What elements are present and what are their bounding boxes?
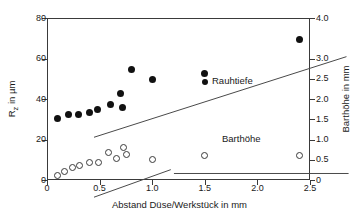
rauhtiefe-point: [86, 109, 93, 116]
rauhtiefe-point: [117, 90, 124, 97]
y-right-tick-1.0: [310, 140, 315, 141]
barthoehe-point: [149, 156, 156, 163]
rauhtiefe-point: [94, 106, 101, 113]
barthoehe-point: [76, 162, 83, 169]
y-right-label-0: 0: [316, 176, 321, 185]
barthoehe-point: [201, 152, 208, 159]
rauhtiefe-legend-marker-icon: [202, 79, 208, 85]
x-axis-title: Abstand Düse/Werkstück in mm: [0, 199, 359, 210]
y-right-tick-0.5: [310, 160, 315, 161]
y-left-label-80: 80: [36, 14, 46, 23]
rauhtiefe-point: [149, 76, 156, 83]
rauhtiefe-point: [54, 115, 61, 122]
rauhtiefe-series-label: Rauhtiefe: [212, 75, 253, 86]
y-right-tick-4.0: [310, 18, 315, 19]
barthoehe-point: [123, 151, 130, 158]
rauhtiefe-point: [65, 111, 72, 118]
x-label-2.0: 2.0: [251, 184, 264, 193]
y-right-tick-3.0: [310, 59, 315, 60]
y-right-tick-2.0: [310, 99, 315, 100]
barthoehe-point: [105, 149, 112, 156]
y-axis-left-title-subscript: z: [11, 107, 20, 111]
y-left-label-20: 20: [36, 135, 46, 144]
chart-figure: 020406080 00.51.01.52.02.53.04.0 00.51.0…: [0, 0, 359, 217]
barthoehe-point: [54, 172, 61, 179]
y-axis-left-title-prefix: R: [6, 110, 17, 117]
barthoehe-series-label: Barthöhe: [222, 133, 261, 144]
plot-area: [47, 18, 310, 180]
barthoehe-point: [86, 159, 93, 166]
barthoehe-point: [69, 164, 76, 171]
rauhtiefe-point: [128, 66, 135, 73]
x-label-2.5: 2.5: [304, 184, 317, 193]
barthoehe-point: [113, 155, 120, 162]
barthoehe-point: [61, 168, 68, 175]
y-right-label-2.0: 2.0: [316, 95, 329, 104]
y-right-label-4.0: 4.0: [316, 14, 329, 23]
rauhtiefe-point: [107, 101, 114, 108]
y-left-label-60: 60: [36, 54, 46, 63]
y-right-label-1.5: 1.5: [316, 115, 329, 124]
y-axis-left-title: Rz in µm: [6, 81, 20, 118]
y-right-tick-1.5: [310, 119, 315, 120]
rauhtiefe-point: [119, 104, 126, 111]
x-label-1.0: 1.0: [146, 184, 159, 193]
barthoehe-point: [95, 159, 102, 166]
rauhtiefe-point: [296, 36, 303, 43]
rauhtiefe-point: [201, 70, 208, 77]
x-label-1.5: 1.5: [199, 184, 212, 193]
y-left-label-40: 40: [36, 95, 46, 104]
y-axis-right-title: Barthöhe in mm: [340, 65, 351, 132]
y-right-label-3.0: 3.0: [316, 54, 329, 63]
y-right-label-1.0: 1.0: [316, 135, 329, 144]
y-axis-left-title-suffix: in µm: [6, 81, 17, 107]
y-right-label-0.5: 0.5: [316, 155, 329, 164]
x-label-0.5: 0.5: [93, 184, 106, 193]
barthoehe-point: [296, 152, 303, 159]
y-right-label-2.5: 2.5: [316, 74, 329, 83]
x-label-0: 0: [44, 184, 49, 193]
y-right-tick-2.5: [310, 79, 315, 80]
rauhtiefe-point: [75, 111, 82, 118]
